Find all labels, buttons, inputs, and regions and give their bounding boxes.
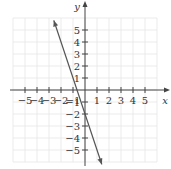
line-arrow-top-icon (53, 20, 58, 26)
x-tick-label: 3 (118, 95, 124, 106)
y-tick-label: −2 (65, 109, 80, 120)
y-tick-label: 2 (74, 61, 80, 72)
x-tick-label: 1 (94, 95, 100, 106)
y-axis-arrow-icon (83, 1, 88, 7)
y-tick-label: −4 (65, 133, 80, 144)
y-tick-label: −1 (65, 97, 80, 108)
x-tick-label: 4 (130, 95, 136, 106)
y-tick-label: 4 (74, 37, 80, 48)
x-tick-label: 2 (106, 95, 112, 106)
y-tick-label: −5 (65, 145, 80, 156)
axes (10, 1, 170, 166)
x-axis-arrow-icon (164, 88, 170, 93)
x-tick-label: 5 (142, 95, 148, 106)
coordinate-plane: −5−4−3−2−112345−5−4−3−2−112345 x y (0, 0, 171, 169)
y-tick-label: 5 (74, 25, 80, 36)
line-arrow-bottom-icon (98, 158, 103, 164)
y-axis-label: y (73, 1, 80, 12)
y-tick-label: 3 (74, 49, 80, 60)
y-tick-label: −3 (65, 121, 80, 132)
x-axis-label: x (162, 95, 168, 106)
